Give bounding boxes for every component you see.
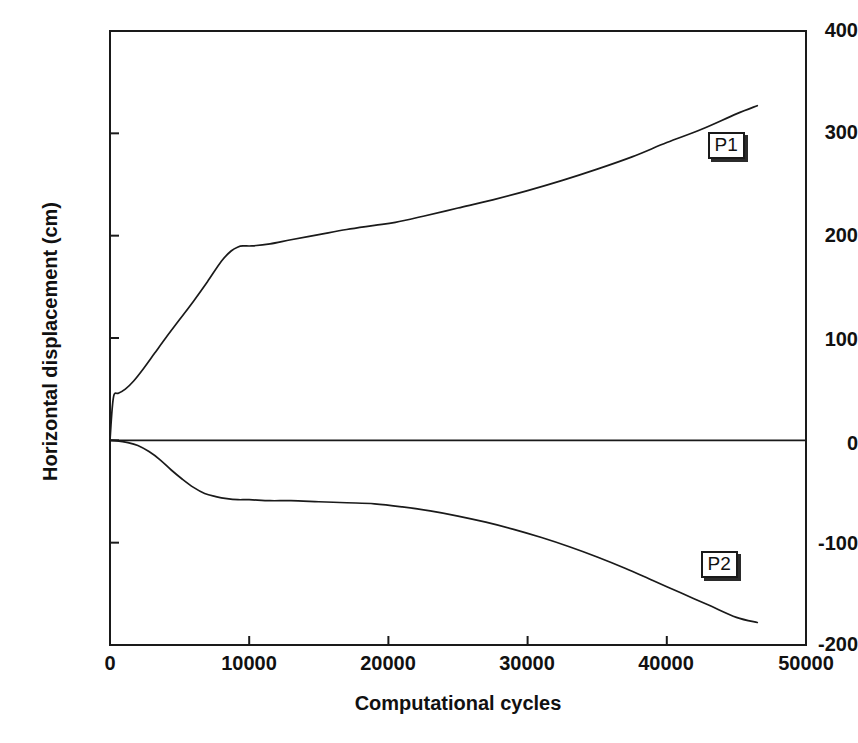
series-lines xyxy=(110,106,757,623)
axis-ticks xyxy=(110,133,667,645)
series-line-p2 xyxy=(110,440,757,622)
series-label-p2: P2 xyxy=(701,551,738,578)
plot-area xyxy=(0,0,858,743)
series-line-p1 xyxy=(110,106,757,441)
chart-figure: Horizontal displacement (cm) 400 300 200… xyxy=(0,0,858,743)
series-label-p1: P1 xyxy=(708,132,745,159)
